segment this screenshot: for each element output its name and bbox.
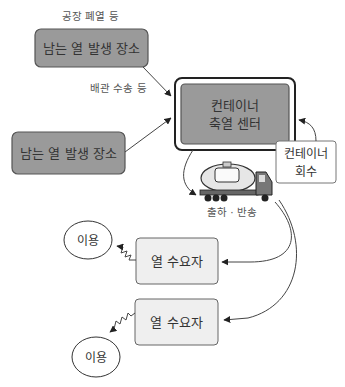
factory-waste-caption: 공장 폐열 등 xyxy=(62,10,119,22)
usage-2-node: 이용 xyxy=(72,337,120,377)
pipe-transport-caption: 배관 수송 등 xyxy=(90,82,147,94)
storage-center-label-line2: 축열 센터 xyxy=(209,116,261,131)
shipping-caption: 출하 · 반송 xyxy=(207,206,257,218)
container-return-label-line1: 컨테이너 xyxy=(284,147,328,161)
heat-source-top-node: 남는 열 발생 장소 xyxy=(35,29,148,67)
usage-2-label: 이용 xyxy=(85,351,107,365)
heat-source-top-label: 남는 열 발생 장소 xyxy=(43,41,139,56)
heat-zigzag-arrow-1 xyxy=(117,246,136,260)
heat-zigzag-arrow-2 xyxy=(110,313,135,332)
diagram-canvas: 공장 폐열 등 배관 수송 등 출하 · 반송 남는 열 발생 장소 남는 열 … xyxy=(0,0,345,387)
demand-2-node: 열 수요자 xyxy=(135,299,218,345)
heat-source-bottom-label: 남는 열 발생 장소 xyxy=(20,146,116,161)
usage-1-label: 이용 xyxy=(77,234,99,248)
storage-center-label-line1: 컨테이너 xyxy=(211,98,259,113)
arrow-center-to-truck xyxy=(184,150,196,195)
usage-1-node: 이용 xyxy=(64,221,112,259)
arrow-return-to-center xyxy=(299,120,316,141)
arrow-bottom-source-to-center xyxy=(125,118,171,152)
arrow-truck-to-demand-2 xyxy=(224,200,297,320)
container-return-label-line2: 회수 xyxy=(295,165,317,179)
demand-2-label: 열 수요자 xyxy=(150,315,202,330)
arrow-top-source-to-center xyxy=(143,67,171,96)
storage-center-node: 컨테이너 축열 센터 xyxy=(175,78,295,150)
container-return-node: 컨테이너 회수 xyxy=(276,141,336,183)
demand-1-node: 열 수요자 xyxy=(136,238,218,284)
demand-1-label: 열 수요자 xyxy=(151,254,203,269)
tank-truck-icon xyxy=(200,162,272,202)
heat-source-bottom-node: 남는 열 발생 장소 xyxy=(12,132,125,174)
